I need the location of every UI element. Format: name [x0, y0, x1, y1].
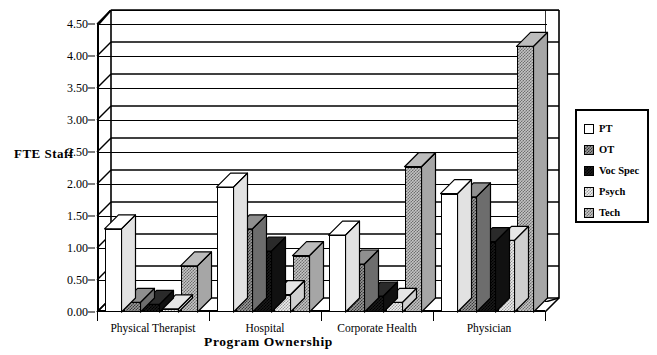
x-axis-title: Program Ownership: [0, 334, 597, 350]
legend-swatch-icon: [584, 187, 594, 197]
bar-front: [441, 194, 458, 312]
bar-front: [217, 187, 234, 312]
x-axis-tick: [209, 312, 210, 321]
bars-layer: [0, 0, 657, 355]
legend-swatch-icon: [584, 166, 594, 176]
x-axis-tick: [97, 312, 98, 321]
x-axis-category-label: Corporate Health: [337, 322, 417, 334]
chart-legend: PTOTVoc SpecPsychTech: [575, 109, 649, 223]
bar-side: [458, 180, 472, 312]
legend-label: Voc Spec: [599, 165, 639, 176]
y-axis-tick-mark: [88, 120, 95, 121]
y-axis-tick-mark: [88, 280, 95, 281]
bar-side: [496, 228, 510, 312]
x-axis-tick: [433, 312, 434, 321]
y-axis-tick-mark: [88, 312, 95, 313]
x-axis-tick: [545, 312, 546, 321]
bar-front: [329, 235, 346, 312]
legend-label: PT: [599, 123, 612, 134]
bar-side: [253, 215, 267, 312]
legend-item-ot[interactable]: OT: [584, 139, 647, 160]
bar-side: [122, 215, 136, 312]
bar-side: [534, 32, 548, 312]
bar-front: [162, 309, 179, 312]
legend-swatch-icon: [584, 145, 594, 155]
y-axis-tick-mark: [88, 152, 95, 153]
y-axis-tick-mark: [88, 248, 95, 249]
legend-label: OT: [599, 144, 614, 155]
legend-item-voc-spec[interactable]: Voc Spec: [584, 160, 647, 181]
legend-swatch-icon: [584, 124, 594, 134]
legend-item-psych[interactable]: Psych: [584, 181, 647, 202]
legend-item-tech[interactable]: Tech: [584, 202, 647, 223]
y-axis-tick-mark: [88, 88, 95, 89]
y-axis-tick-mark: [88, 24, 95, 25]
legend-label: Psych: [599, 186, 625, 197]
x-axis-tick: [321, 312, 322, 321]
bar-side: [477, 183, 491, 312]
x-axis-category-label: Hospital: [246, 322, 285, 334]
bar-side: [346, 221, 360, 312]
bar-chart: FTE Staff 0.000.501.001.502.002.503.003.…: [0, 0, 657, 355]
legend-item-pt[interactable]: PT: [584, 118, 647, 139]
bar-side: [422, 153, 436, 312]
legend-swatch-icon: [584, 208, 594, 218]
y-axis-tick-mark: [88, 216, 95, 217]
x-axis-category-label: Physician: [467, 322, 512, 334]
y-axis-tick-mark: [88, 56, 95, 57]
bar-front: [105, 229, 122, 312]
x-axis-category-label: Physical Therapist: [110, 322, 195, 334]
legend-label: Tech: [599, 207, 620, 218]
bar-side: [234, 173, 248, 312]
bar-side: [515, 226, 529, 312]
y-axis-tick-mark: [88, 184, 95, 185]
